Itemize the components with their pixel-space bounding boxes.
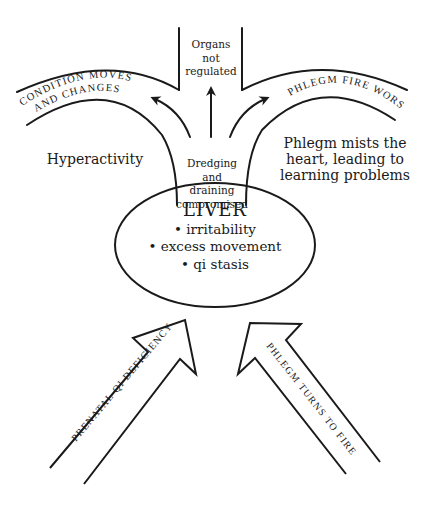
liver-item: • irritability xyxy=(115,221,315,239)
arrow-left-flow xyxy=(155,99,190,137)
input-arrow-prenatal-outline xyxy=(50,320,196,484)
arrow-right-flow xyxy=(230,99,265,137)
organs-not-regulated-label: Organs not regulated xyxy=(180,38,242,79)
liver-title: LIVER xyxy=(115,199,315,221)
input-arrow-phlegm-label: PHLEGM TURNS TO FIRE xyxy=(264,340,359,457)
phlegm-mists-label: Phlegm mists the heart, leading to learn… xyxy=(270,135,420,183)
input-arrow-prenatal-label: PRENATAL QI DEFICIENCY xyxy=(69,320,175,443)
liver-item: • qi stasis xyxy=(115,256,315,274)
liver-item: • excess movement xyxy=(115,238,315,256)
liver-node: LIVER • irritability • excess movement •… xyxy=(115,199,315,273)
hyperactivity-label: Hyperactivity xyxy=(40,150,150,168)
